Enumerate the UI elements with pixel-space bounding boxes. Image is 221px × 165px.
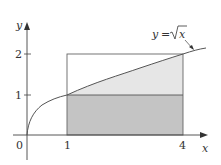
x-axis-arrow-icon bbox=[200, 132, 208, 138]
lower-rectangle-region bbox=[67, 95, 183, 135]
y-tick-label-2: 2 bbox=[15, 48, 22, 61]
region-under-curve bbox=[67, 54, 183, 95]
y-tick-label-1: 1 bbox=[15, 89, 22, 102]
curve-label-x: x bbox=[179, 28, 186, 41]
y-axis-arrow-icon bbox=[24, 22, 30, 30]
curve-label-equals: = bbox=[161, 28, 170, 41]
y-axis-label: y bbox=[15, 19, 23, 32]
curve-label-y: y bbox=[151, 28, 159, 41]
x-tick-label-1: 1 bbox=[64, 139, 71, 152]
figure: y x 2 1 0 1 4 y = x bbox=[0, 0, 221, 165]
x-tick-label-4: 4 bbox=[179, 139, 186, 152]
origin-label: 0 bbox=[16, 139, 23, 152]
x-axis-label: x bbox=[202, 142, 209, 155]
